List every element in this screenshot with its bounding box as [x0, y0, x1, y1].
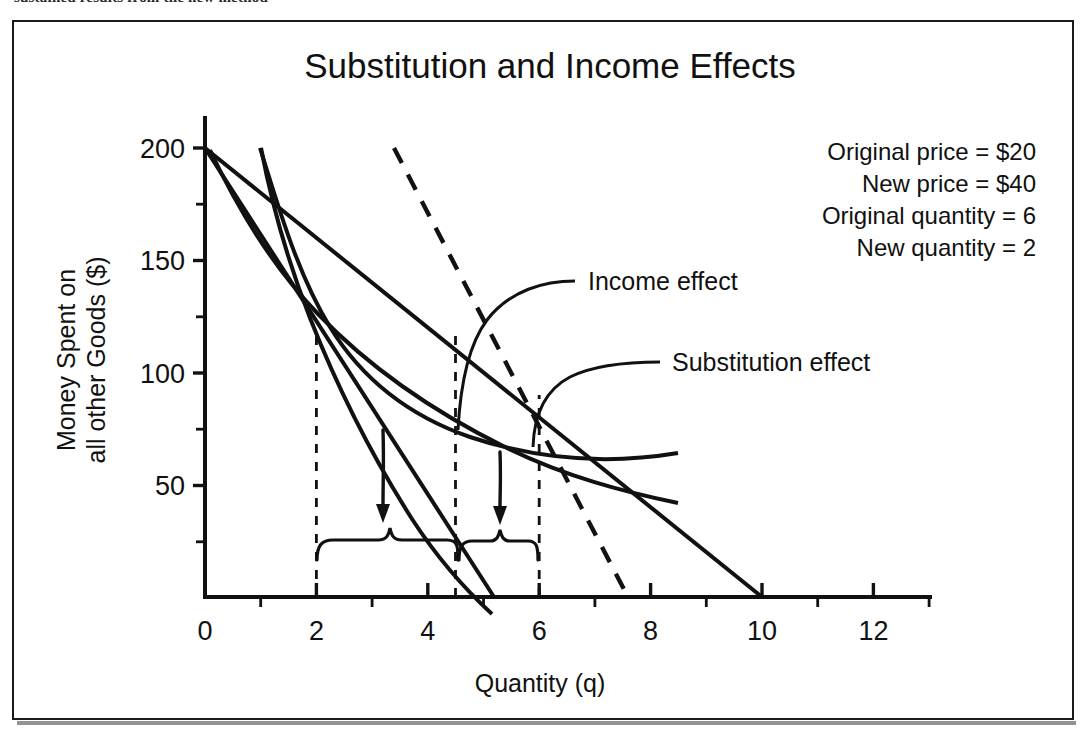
y-tick-label-100: 100: [140, 359, 185, 389]
y-axis-title: Money Spent on all other Goods ($): [52, 256, 110, 463]
annotation-original-quantity: Original quantity = 6: [822, 202, 1036, 229]
drop-lines: [316, 327, 539, 597]
y-axis-title-line-1: Money Spent on: [52, 269, 80, 451]
x-tick-label-8: 8: [643, 616, 658, 646]
chart-title: Substitution and Income Effects: [304, 46, 796, 85]
y-axis-title-line-2: all other Goods ($): [82, 256, 110, 463]
annotation-original-price: Original price = $20: [827, 138, 1036, 165]
substitution-effect-brace: [459, 530, 538, 560]
x-axis-title: Quantity (q): [475, 669, 606, 697]
x-tick-label-12: 12: [858, 616, 888, 646]
substitution-effect-arrowhead: [493, 506, 507, 525]
income-effect-arrowhead: [376, 504, 390, 523]
y-tick-label-150: 150: [140, 246, 185, 276]
indifference-curve-inner: [210, 150, 678, 503]
x-tick-label-10: 10: [747, 616, 777, 646]
x-tick-label-6: 6: [532, 616, 547, 646]
x-tick-label-4: 4: [420, 616, 435, 646]
x-tick-label-2: 2: [309, 616, 324, 646]
y-tick-label-200: 200: [140, 134, 185, 164]
annotation-new-price: New price = $40: [862, 170, 1036, 197]
page-canvas: sustained results from the new method Su…: [0, 0, 1090, 745]
compensated-budget-line-dashed: [394, 148, 628, 597]
annotation-new-quantity: New quantity = 2: [857, 234, 1036, 261]
indifference-curve-outer: [260, 148, 678, 459]
chart-svg: Substitution and Income Effects 200 150 …: [0, 0, 1090, 745]
income-effect-leader: [458, 281, 575, 430]
y-tick-label-50: 50: [155, 471, 185, 501]
substitution-effect-leader: [533, 362, 660, 447]
substitution-effect-label: Substitution effect: [672, 348, 870, 376]
parameter-annotations: Original price = $20 New price = $40 Ori…: [822, 138, 1036, 261]
income-effect-label: Income effect: [588, 267, 738, 295]
x-tick-label-0: 0: [197, 616, 212, 646]
new-budget-line: [205, 148, 494, 597]
